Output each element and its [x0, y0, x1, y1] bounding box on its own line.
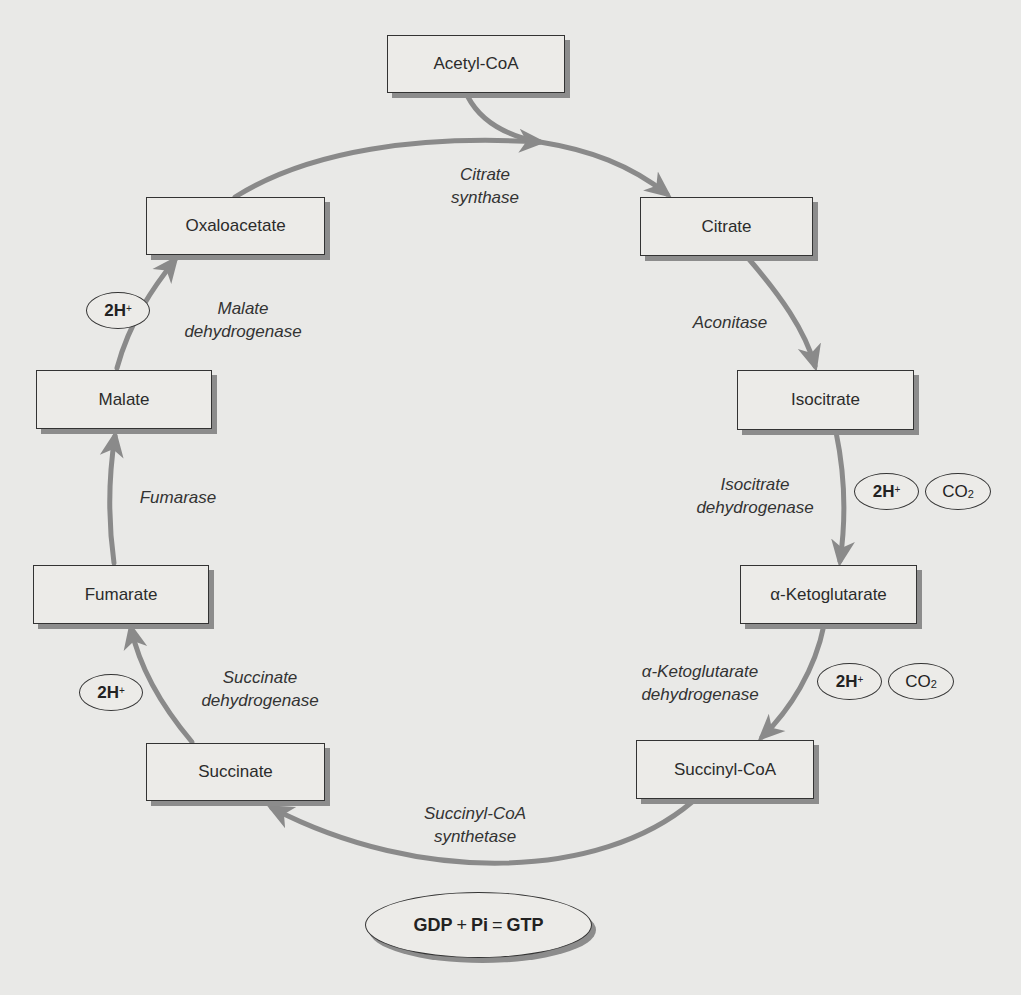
metabolite-acetyl-coa: Acetyl-CoA: [387, 35, 565, 93]
byproduct-label: 2H: [97, 683, 119, 703]
metabolite-citrate: Citrate: [640, 197, 813, 256]
enzyme-akg-dehydrogenase: α-Ketoglutarate dehydrogenase: [630, 660, 770, 706]
enzyme-isocitrate-dehydrogenase: Isocitrate dehydrogenase: [690, 473, 820, 519]
subscript: 2: [931, 678, 937, 690]
metabolite-label: Oxaloacetate: [185, 216, 285, 236]
metabolite-oxaloacetate: Oxaloacetate: [146, 197, 325, 255]
equals-sign: =: [492, 915, 503, 936]
metabolite-succinyl-coa: Succinyl-CoA: [636, 740, 814, 799]
enzyme-citrate-synthase: Citrate synthase: [425, 163, 545, 209]
metabolite-fumarate: Fumarate: [33, 565, 209, 624]
arrow-fumarate-to-malate: [110, 436, 115, 563]
byproduct-co2-isocitrate: CO2: [925, 473, 991, 510]
arrow-akg-to-succinylcoa: [762, 625, 824, 737]
subscript: 2: [968, 488, 974, 500]
enzyme-line: Fumarase: [128, 486, 228, 509]
enzyme-line: Isocitrate: [690, 473, 820, 496]
metabolite-alpha-ketoglutarate: α-Ketoglutarate: [740, 565, 917, 624]
metabolite-malate: Malate: [36, 370, 212, 429]
enzyme-succinyl-coa-synthetase: Succinyl-CoA synthetase: [410, 802, 540, 848]
enzyme-fumarase: Fumarase: [128, 486, 228, 509]
enzyme-line: dehydrogenase: [630, 683, 770, 706]
enzyme-line: Citrate: [425, 163, 545, 186]
arrow-acetylcoa-in: [468, 97, 538, 142]
byproduct-2h-malate: 2H+: [86, 292, 150, 329]
enzyme-line: Malate: [178, 297, 308, 320]
plus-sign: +: [456, 915, 467, 936]
metabolite-label: Citrate: [701, 217, 751, 237]
byproduct-2h-succinate: 2H+: [79, 674, 143, 711]
enzyme-line: Aconitase: [680, 311, 780, 334]
byproduct-label: CO: [905, 672, 931, 692]
byproduct-label: CO: [942, 482, 968, 502]
gtp-reaction: GDP + Pi = GTP: [365, 892, 592, 958]
enzyme-line: synthase: [425, 186, 545, 209]
byproduct-2h-isocitrate: 2H+: [854, 473, 919, 510]
arrow-isocitrate-to-akg: [836, 432, 844, 561]
enzyme-line: dehydrogenase: [178, 320, 308, 343]
pi-label: Pi: [471, 915, 488, 936]
enzyme-line: dehydrogenase: [690, 496, 820, 519]
enzyme-line: dehydrogenase: [195, 689, 325, 712]
enzyme-aconitase: Aconitase: [680, 311, 780, 334]
metabolite-label: Succinyl-CoA: [674, 760, 776, 780]
gtp-label: GTP: [507, 915, 544, 936]
enzyme-line: Succinate: [195, 666, 325, 689]
enzyme-line: synthetase: [410, 825, 540, 848]
metabolite-label: Malate: [98, 390, 149, 410]
superscript: +: [894, 484, 900, 495]
byproduct-label: 2H: [104, 301, 126, 321]
gdp-label: GDP: [413, 915, 452, 936]
superscript: +: [126, 303, 132, 314]
byproduct-label: 2H: [873, 482, 895, 502]
enzyme-line: α-Ketoglutarate: [630, 660, 770, 683]
byproduct-2h-akg: 2H+: [817, 663, 882, 700]
metabolite-label: α-Ketoglutarate: [770, 585, 887, 605]
enzyme-malate-dehydrogenase: Malate dehydrogenase: [178, 297, 308, 343]
arrow-to-citrate: [540, 142, 667, 194]
enzyme-line: Succinyl-CoA: [410, 802, 540, 825]
byproduct-co2-akg: CO2: [888, 663, 954, 700]
byproduct-label: 2H: [836, 672, 858, 692]
metabolite-label: Acetyl-CoA: [433, 54, 518, 74]
superscript: +: [119, 685, 125, 696]
metabolite-isocitrate: Isocitrate: [737, 370, 914, 430]
metabolite-label: Fumarate: [85, 585, 158, 605]
enzyme-succinate-dehydrogenase: Succinate dehydrogenase: [195, 666, 325, 712]
metabolite-label: Isocitrate: [791, 390, 860, 410]
superscript: +: [857, 674, 863, 685]
metabolite-succinate: Succinate: [146, 743, 325, 801]
metabolite-label: Succinate: [198, 762, 273, 782]
